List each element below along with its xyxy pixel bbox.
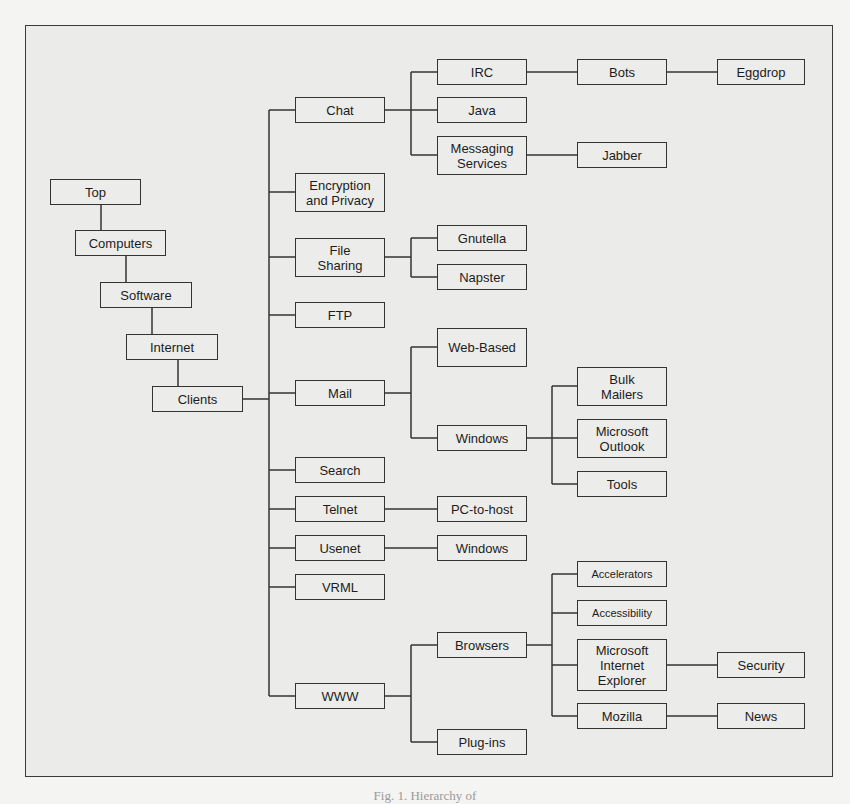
node-bulk-mailers: Bulk Mailers — [577, 367, 667, 406]
node-clients: Clients — [152, 386, 243, 412]
tree-connectors — [0, 0, 850, 804]
figure-caption: Fig. 1. Hierarchy of — [0, 788, 850, 804]
node-computers: Computers — [75, 230, 166, 256]
node-www: WWW — [295, 683, 385, 709]
node-mozilla: Mozilla — [577, 703, 667, 729]
node-software: Software — [100, 282, 192, 308]
node-usenet: Usenet — [295, 535, 385, 561]
node-jabber: Jabber — [577, 142, 667, 168]
node-usenet-windows: Windows — [437, 535, 527, 561]
node-web-based: Web-Based — [437, 328, 527, 367]
node-browsers: Browsers — [437, 632, 527, 658]
node-internet: Internet — [126, 334, 218, 360]
node-chat: Chat — [295, 97, 385, 123]
node-mail: Mail — [295, 380, 385, 406]
node-file-sharing: File Sharing — [295, 238, 385, 277]
node-napster: Napster — [437, 264, 527, 290]
node-microsoft-internet-explorer: Microsoft Internet Explorer — [577, 639, 667, 691]
node-news: News — [717, 703, 805, 729]
node-vrml: VRML — [295, 574, 385, 600]
node-encryption-privacy: Encryption and Privacy — [295, 173, 385, 212]
node-messaging-services: Messaging Services — [437, 136, 527, 175]
node-pc-to-host: PC-to-host — [437, 496, 527, 522]
node-gnutella: Gnutella — [437, 225, 527, 251]
node-mail-windows: Windows — [437, 425, 527, 451]
node-search: Search — [295, 457, 385, 483]
node-ftp: FTP — [295, 302, 385, 328]
node-top: Top — [50, 179, 141, 205]
node-accelerators: Accelerators — [577, 561, 667, 587]
node-plug-ins: Plug-ins — [437, 729, 527, 755]
node-eggdrop: Eggdrop — [717, 59, 805, 85]
node-java: Java — [437, 97, 527, 123]
node-irc: IRC — [437, 59, 527, 85]
node-bots: Bots — [577, 59, 667, 85]
node-tools: Tools — [577, 471, 667, 497]
node-accessibility: Accessibility — [577, 600, 667, 626]
node-telnet: Telnet — [295, 496, 385, 522]
node-security: Security — [717, 652, 805, 678]
node-microsoft-outlook: Microsoft Outlook — [577, 419, 667, 458]
